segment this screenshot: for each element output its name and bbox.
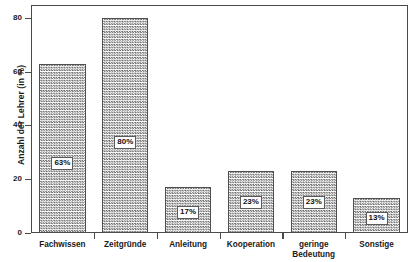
y-axis-title: Anzahl der Lehrer (in %) [16, 40, 26, 190]
y-tick-mark [25, 125, 31, 126]
bar-2 [102, 18, 148, 233]
x-tick-mark [94, 233, 95, 239]
bar-1 [39, 64, 85, 233]
plot-area [31, 5, 408, 233]
x-tick-mark [157, 233, 158, 239]
bar-value-label-6: 13% [366, 212, 388, 225]
x-tick-mark [345, 233, 346, 239]
bar-value-label-5: 23% [303, 196, 325, 209]
y-tick-mark [25, 18, 31, 19]
y-tick-label: 0 [0, 228, 22, 237]
bar-value-label-1: 63% [51, 157, 73, 170]
x-category-label-3: Anleitung [169, 240, 207, 250]
x-tick-mark [220, 233, 221, 239]
x-category-label-line: Anleitung [169, 240, 207, 249]
y-tick-label: 20 [0, 174, 22, 183]
x-tick-mark [282, 233, 283, 239]
x-category-label-4: Kooperation [227, 240, 275, 250]
x-category-label-line: Zeitgründe [104, 240, 146, 249]
bar-value-label-3: 17% [177, 206, 199, 219]
y-tick-mark [25, 233, 31, 234]
x-category-label-6: Sonstige [359, 240, 394, 250]
x-category-label-2: Zeitgründe [104, 240, 146, 250]
x-category-label-line: Fachwissen [39, 240, 85, 249]
x-category-label-line: geringe [299, 240, 329, 249]
y-tick-label: 60 [0, 67, 22, 76]
y-tick-mark [25, 72, 31, 73]
y-tick-mark [25, 179, 31, 180]
bar-value-label-4: 23% [240, 196, 262, 209]
y-tick-label: 80 [0, 13, 22, 22]
x-category-label-1: Fachwissen [39, 240, 85, 250]
x-category-label-line: Bedeutung [292, 250, 335, 260]
bar-chart-figure: Anzahl der Lehrer (in %) 020406080 63%80… [0, 0, 415, 262]
x-category-label-line: Sonstige [359, 240, 394, 249]
bar-value-label-2: 80% [114, 136, 136, 149]
x-category-label-line: Kooperation [227, 240, 275, 249]
y-tick-label: 40 [0, 120, 22, 129]
x-category-label-5: geringeBedeutung [292, 240, 335, 259]
